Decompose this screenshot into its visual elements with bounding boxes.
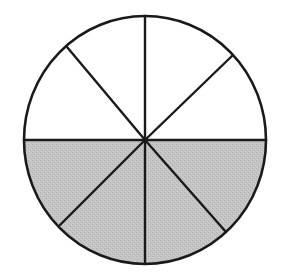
spoke-upper-right (145, 55, 233, 140)
spoke-upper-left (67, 47, 145, 140)
center-point (143, 138, 148, 143)
shaded-half (20, 140, 275, 270)
fraction-circle-diagram (0, 0, 285, 280)
